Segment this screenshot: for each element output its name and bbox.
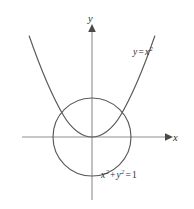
- math-figure: x y y=x2 x2+y2=1: [0, 0, 194, 209]
- circle-rhs-value: 1: [132, 170, 137, 180]
- x-axis-arrow-icon: [165, 133, 173, 141]
- circle-equation-label: x2+y2=1: [101, 170, 137, 180]
- y-axis-label: y: [87, 13, 93, 24]
- graph-canvas: x y: [0, 0, 194, 209]
- x-axis-label: x: [172, 132, 178, 143]
- parabola-equals: =: [137, 47, 145, 57]
- y-axis-arrow-icon: [88, 24, 96, 32]
- parabola-exponent: 2: [149, 45, 153, 52]
- circle-equals-sign: =: [124, 170, 132, 180]
- parabola-equation-label: y=x2: [133, 47, 153, 57]
